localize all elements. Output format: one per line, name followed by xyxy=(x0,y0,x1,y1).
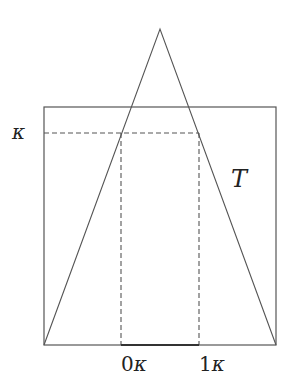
tick-1-kappa: 1κ xyxy=(199,352,225,376)
bounding-rectangle xyxy=(44,107,276,345)
tick-1-number: 1 xyxy=(199,352,212,376)
kappa-label: κ xyxy=(11,120,25,144)
tick-0-number: 0 xyxy=(121,352,134,376)
tick-0-kappa: 0κ xyxy=(121,352,147,376)
tick-0-symbol: κ xyxy=(133,352,147,376)
tick-1-symbol: κ xyxy=(211,352,225,376)
T-label: T xyxy=(231,165,249,193)
diagram-canvas: κ T 0κ 1κ xyxy=(0,0,292,389)
